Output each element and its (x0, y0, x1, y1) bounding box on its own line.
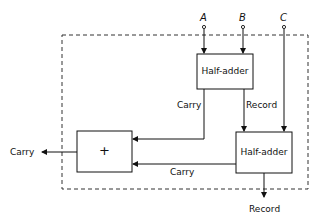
edge-label-out-carry: Carry (10, 148, 34, 157)
edge-label-bottom-carry: Carry (170, 168, 194, 177)
input-terminal-b (241, 25, 244, 28)
input-terminal-c (282, 25, 285, 28)
input-label-c: C (280, 13, 287, 23)
diagram-canvas (0, 0, 321, 222)
wire-top-carry (133, 89, 204, 139)
or-block-label: + (77, 144, 132, 157)
input-terminal-a (202, 25, 205, 28)
input-label-b: B (239, 13, 246, 23)
edge-label-top-record: Record (246, 101, 277, 110)
edge-label-top-carry: Carry (177, 101, 201, 110)
half-adder-top-label: Half-adder (197, 67, 253, 76)
half-adder-bottom-label: Half-adder (236, 148, 292, 157)
edge-label-out-record: Record (249, 205, 280, 214)
input-label-a: A (200, 13, 207, 23)
